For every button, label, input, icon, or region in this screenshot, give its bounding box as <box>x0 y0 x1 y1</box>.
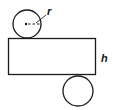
height-label: h <box>101 52 108 64</box>
radius-label: r <box>47 5 52 17</box>
lateral-rectangle <box>9 39 96 75</box>
cylinder-net-diagram: r h <box>0 0 116 110</box>
center-dot <box>25 23 27 25</box>
bottom-circle <box>63 76 93 106</box>
